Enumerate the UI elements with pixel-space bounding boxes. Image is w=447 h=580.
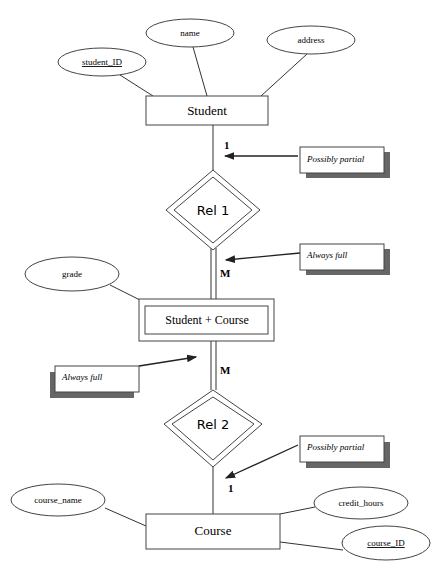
svg-text:Always full: Always full: [306, 250, 348, 260]
note-possibly-partial-2: Possibly partial: [300, 436, 390, 468]
cardinality-label: M: [220, 267, 231, 279]
attribute-grade: grade: [25, 257, 119, 291]
svg-text:Always full: Always full: [61, 372, 103, 382]
er-diagram: student_ID name address grade course_nam…: [0, 0, 447, 580]
svg-text:course_name: course_name: [34, 495, 81, 505]
attribute-credit-hours: credit_hours: [314, 487, 408, 519]
note-always-full-1: Always full: [300, 244, 390, 275]
svg-text:Possibly partial: Possibly partial: [306, 154, 365, 164]
relationship-rel1: Rel 1: [166, 170, 260, 250]
svg-text:Student: Student: [187, 103, 227, 118]
attribute-address: address: [267, 26, 355, 54]
attribute-name: name: [146, 19, 234, 47]
note-always-full-2: Always full: [50, 366, 139, 398]
entity-student-course: Student + Course: [139, 299, 274, 341]
svg-text:Possibly partial: Possibly partial: [306, 442, 365, 452]
entity-course: Course: [146, 514, 280, 549]
svg-text:grade: grade: [62, 269, 82, 279]
svg-text:Course: Course: [195, 523, 232, 538]
svg-text:address: address: [298, 35, 325, 45]
cardinality-label: M: [220, 364, 231, 376]
svg-text:name: name: [180, 28, 200, 38]
cardinality-label: 1: [224, 139, 230, 151]
attribute-course-id: course_ID: [342, 526, 430, 560]
svg-text:Rel 1: Rel 1: [197, 203, 229, 218]
arrow-icon: [226, 445, 298, 478]
note-possibly-partial-1: Possibly partial: [300, 147, 390, 178]
svg-text:student_ID: student_ID: [82, 57, 122, 67]
arrow-icon: [226, 253, 300, 260]
svg-text:Student + Course: Student + Course: [165, 313, 248, 327]
relationship-rel2: Rel 2: [164, 390, 262, 467]
svg-text:course_ID: course_ID: [367, 538, 405, 548]
svg-text:credit_hours: credit_hours: [339, 498, 384, 508]
entity-student: Student: [146, 96, 268, 125]
attribute-student-id: student_ID: [58, 48, 146, 76]
cardinality-label: 1: [228, 482, 234, 494]
svg-text:Rel 2: Rel 2: [197, 417, 229, 432]
arrow-icon: [139, 357, 196, 366]
attribute-course-name: course_name: [11, 484, 105, 516]
